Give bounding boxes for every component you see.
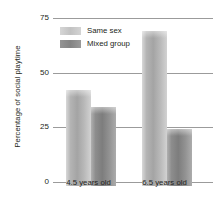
bar-same-sex-6-5 — [142, 31, 167, 186]
y-axis-title: Percentage of social playtime — [13, 17, 22, 177]
y-tick-label-25: 25 — [40, 122, 49, 131]
gridline-50: 50 — [53, 73, 213, 74]
y-tick-label-75: 75 — [40, 13, 49, 22]
legend-label-mixed-group: Mixed group — [87, 39, 130, 48]
legend-swatch-same-sex — [60, 27, 81, 35]
bar-chart: Percentage of social playtime 75 50 25 0… — [0, 0, 219, 210]
x-tick-label-6-5-years: 6.5 years old — [132, 178, 197, 187]
bar-highlight — [66, 90, 91, 97]
bar-highlight — [91, 107, 116, 114]
legend: Same sex Mixed group — [60, 25, 130, 51]
legend-swatch-mixed-group — [60, 40, 81, 48]
bar-highlight — [142, 31, 167, 38]
bar-same-sex-4-5 — [66, 90, 91, 186]
legend-label-same-sex: Same sex — [87, 26, 122, 35]
x-tick-label-4-5-years: 4.5 years old — [56, 178, 121, 187]
y-tick-label-0: 0 — [45, 177, 49, 186]
y-tick-label-50: 50 — [40, 68, 49, 77]
bar-highlight — [167, 129, 192, 136]
legend-item-mixed-group: Mixed group — [60, 38, 130, 49]
gridline-75: 75 — [53, 18, 213, 19]
legend-item-same-sex: Same sex — [60, 25, 130, 36]
bar-mixed-group-4-5 — [91, 107, 116, 186]
